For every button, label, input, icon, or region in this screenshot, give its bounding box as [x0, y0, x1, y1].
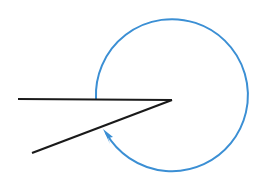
figure-svg	[0, 0, 266, 187]
figure-background	[0, 0, 266, 187]
horizontal-ray	[18, 99, 172, 100]
reflex-angle-figure	[0, 0, 266, 187]
